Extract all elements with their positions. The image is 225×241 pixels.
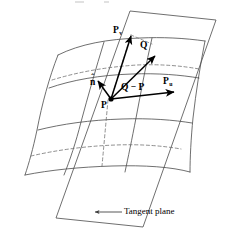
label-unit-normal: ˆn [90, 78, 95, 88]
hidden-construction-lines [31, 65, 199, 166]
surface-bottom-edge [25, 166, 190, 175]
dashed-plane-trace-lower [31, 145, 181, 156]
caption-tangent-plane: Tangent plane [124, 207, 175, 216]
dashed-plane-trace-upper [52, 65, 199, 80]
vector-normal-n [98, 81, 111, 99]
surface-left-edge [25, 55, 58, 175]
surface-v-curve-1 [64, 42, 104, 175]
surface-patch [25, 38, 205, 175]
label-point-q: Q [140, 41, 147, 51]
label-q-minus-p: Q − P [121, 83, 144, 93]
label-partial-derivative-u: Pu [163, 77, 172, 87]
figure-canvas [0, 0, 225, 241]
surface-top-edge [58, 38, 205, 55]
label-point-p: P [101, 101, 107, 111]
tangent-plane-figure: Pv Q ˆn Q − P Pu P Tangent plane [0, 0, 225, 241]
surface-u-curve-2 [38, 119, 192, 130]
label-partial-derivative-v: Pv [113, 26, 122, 36]
surface-v-curve-2 [125, 38, 152, 172]
point-p-marker [108, 96, 113, 101]
vector-pu [111, 92, 174, 99]
surface-right-edge [190, 41, 205, 172]
